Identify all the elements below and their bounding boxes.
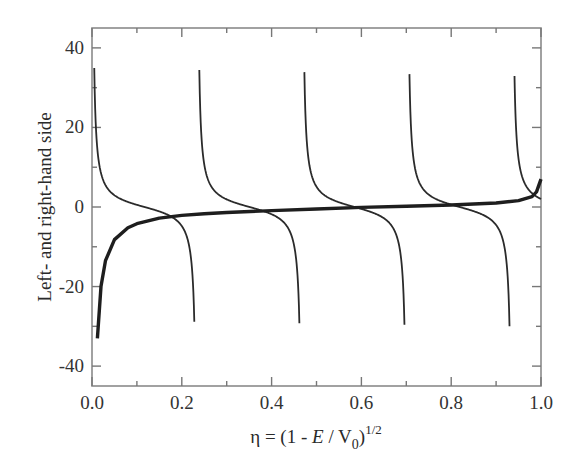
y-axis-title: Left- and right-hand side	[34, 112, 55, 301]
x-axis-title-subscript: 0	[352, 437, 359, 452]
y-tick-label: 20	[65, 116, 84, 137]
x-tick-label: 0.8	[439, 392, 463, 413]
x-tick-label: 0.0	[80, 392, 104, 413]
x-tick-label: 1.0	[529, 392, 553, 413]
y-tick-label: -20	[59, 276, 84, 297]
x-tick-label: 0.2	[170, 392, 194, 413]
x-axis-title-slash: / V	[324, 426, 352, 447]
plot-border	[92, 28, 541, 386]
y-tick-label: 0	[75, 196, 85, 217]
x-axis-title-main: η = (1 -	[250, 426, 312, 448]
thin-curve-branch	[515, 76, 541, 199]
thin-curve-branch	[94, 68, 194, 322]
thick-curve	[97, 179, 541, 338]
data-series	[94, 68, 541, 338]
x-axis-title: η = (1 - E / V0)1/2	[250, 422, 382, 452]
x-axis-title-energy: E	[311, 426, 324, 447]
y-tick-label: 40	[65, 37, 84, 58]
thin-curve-branch	[304, 72, 404, 325]
x-axis-title-superscript: 1/2	[365, 422, 382, 437]
axis-ticks	[92, 28, 541, 386]
plot-frame	[92, 28, 541, 386]
thin-curve-branch	[409, 74, 509, 326]
y-tick-label: -40	[59, 355, 84, 376]
chart-canvas: 0.00.20.40.60.81.0-40-2002040 Left- and …	[0, 0, 576, 461]
thin-curve-branch	[199, 70, 299, 323]
x-tick-label: 0.6	[350, 392, 374, 413]
x-tick-label: 0.4	[260, 392, 284, 413]
